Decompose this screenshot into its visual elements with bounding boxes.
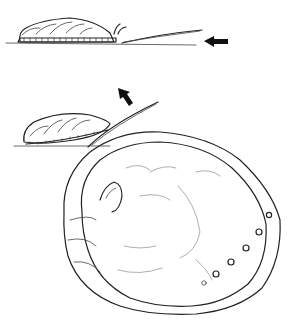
abalone-being-pried: [14, 102, 158, 147]
abalone-illustration: [0, 0, 302, 321]
arrow-left-icon: [204, 36, 228, 47]
abalone-on-rock: [6, 18, 202, 45]
illustration-canvas: [0, 0, 302, 321]
abalone-shell-interior: [64, 132, 280, 315]
respiratory-pores: [202, 212, 272, 285]
arrow-up-icon: [118, 88, 133, 106]
